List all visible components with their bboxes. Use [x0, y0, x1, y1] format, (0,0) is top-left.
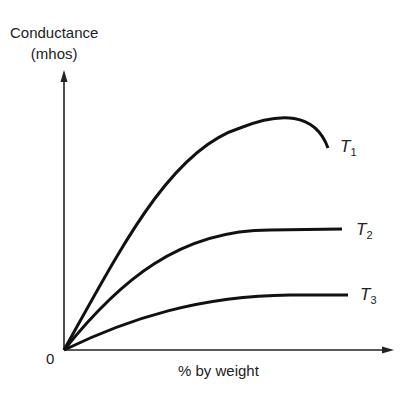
x-axis-arrow-icon [382, 347, 394, 354]
label-t1: T1 [340, 137, 357, 158]
label-t2: T2 [356, 220, 373, 241]
curve-t1 [64, 118, 328, 350]
y-axis-label: Conductance (mhos) [10, 22, 98, 64]
conductance-diagram: Conductance (mhos) 0 % by weight T1 T2 T… [0, 0, 414, 396]
y-axis-unit: (mhos) [10, 43, 98, 64]
y-axis-title: Conductance [10, 22, 98, 43]
y-axis-arrow-icon [61, 70, 68, 82]
label-t3: T3 [360, 285, 377, 306]
origin-label: 0 [46, 350, 54, 367]
x-axis-label: % by weight [178, 362, 259, 379]
